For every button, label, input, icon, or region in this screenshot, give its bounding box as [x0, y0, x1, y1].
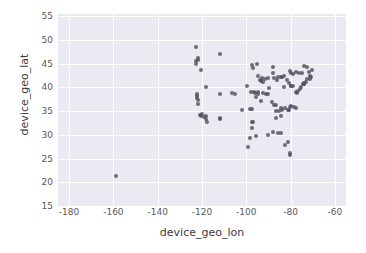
gridline-vertical	[158, 14, 159, 206]
scatter-point	[286, 140, 290, 144]
scatter-point	[248, 136, 252, 140]
gridline-horizontal	[58, 182, 346, 183]
gridline-vertical	[202, 14, 203, 206]
x-tick-label: -80	[283, 208, 298, 217]
x-tick-label: -160	[103, 208, 123, 217]
scatter-point	[245, 84, 249, 88]
gridline-vertical	[335, 14, 336, 206]
gridline-horizontal	[58, 16, 346, 17]
scatter-point	[218, 52, 222, 56]
scatter-point	[288, 69, 292, 73]
x-tick-label: -100	[236, 208, 256, 217]
gridline-horizontal	[58, 159, 346, 160]
scatter-point	[266, 92, 270, 96]
scatter-point	[205, 120, 209, 124]
scatter-point	[250, 107, 254, 111]
x-axis-ticks: -180-160-140-120-100-80-60	[58, 208, 346, 222]
scatter-point	[196, 102, 200, 106]
scatter-point	[233, 92, 237, 96]
scatter-point	[251, 120, 255, 124]
scatter-point	[299, 85, 303, 89]
scatter-point	[251, 66, 255, 70]
scatter-point	[204, 85, 208, 89]
plot-area	[58, 14, 346, 206]
scatter-point	[194, 62, 198, 66]
scatter-point	[254, 134, 258, 138]
scatter-point	[255, 62, 259, 66]
scatter-point	[279, 114, 283, 118]
gridline-vertical	[69, 14, 70, 206]
scatter-point	[294, 106, 298, 110]
scatter-point	[246, 145, 250, 149]
scatter-point	[194, 45, 198, 49]
scatter-plot-figure: 152025303540455055 -180-160-140-120-100-…	[0, 0, 366, 253]
gridline-vertical	[291, 14, 292, 206]
scatter-point	[266, 133, 270, 137]
gridline-horizontal	[58, 135, 346, 136]
x-axis-label: device_geo_lon	[58, 226, 346, 239]
scatter-point	[271, 65, 275, 69]
gridline-vertical	[246, 14, 247, 206]
scatter-point	[267, 86, 271, 90]
scatter-point	[196, 58, 200, 62]
scatter-point	[114, 174, 118, 178]
x-tick-label: -120	[192, 208, 212, 217]
scatter-point	[218, 92, 222, 96]
scatter-point	[256, 92, 260, 96]
scatter-point	[274, 116, 278, 120]
scatter-point	[250, 126, 254, 130]
scatter-point	[271, 71, 275, 75]
scatter-point	[282, 85, 286, 89]
x-tick-label: -180	[59, 208, 79, 217]
scatter-point	[271, 130, 275, 134]
x-tick-label: -60	[328, 208, 343, 217]
y-tick-label: 15	[1, 202, 53, 211]
y-axis-label: device_geo_lat	[18, 0, 31, 191]
x-tick-label: -140	[147, 208, 167, 217]
scatter-point	[309, 75, 313, 79]
scatter-point	[266, 76, 270, 80]
scatter-point	[259, 99, 263, 103]
gridline-horizontal	[58, 40, 346, 41]
